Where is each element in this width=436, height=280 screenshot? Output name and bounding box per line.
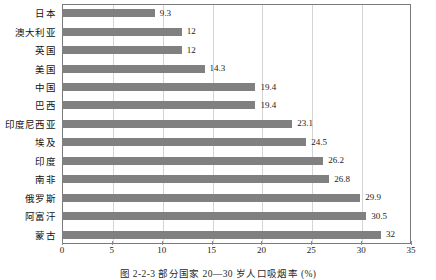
bar-row: 26.2: [62, 152, 411, 170]
bar-row: 23.1: [62, 115, 411, 133]
bar-row: 24.5: [62, 133, 411, 151]
bar-row: 29.9: [62, 189, 411, 207]
bar: [62, 175, 329, 183]
x-axis-tick-label: 20: [257, 245, 266, 255]
figure-caption: 图 2-2-3 部分国家 20—30 岁人口吸烟率 (%): [0, 266, 436, 280]
bar: [62, 101, 255, 109]
bar: [62, 65, 205, 73]
y-axis-tick-label: 蒙古: [0, 225, 59, 243]
x-axis: 05101520253035: [62, 245, 411, 259]
x-axis-tick-label: 15: [207, 245, 216, 255]
y-axis-tick-label: 英国: [0, 41, 59, 59]
y-axis-tick-label: 澳大利亚: [0, 22, 59, 40]
bar-value-label: 19.4: [260, 83, 276, 92]
bar: [62, 46, 182, 54]
x-axis-tick-label: 30: [357, 245, 366, 255]
x-axis-tick-label: 35: [407, 245, 416, 255]
bar-value-label: 23.1: [297, 119, 313, 128]
y-axis-tick-label: 埃及: [0, 133, 59, 151]
y-axis-tick-label: 日本: [0, 4, 59, 22]
bar-row: 12: [62, 41, 411, 59]
x-axis-tick-label: 10: [157, 245, 166, 255]
bar: [62, 231, 381, 239]
bar: [62, 120, 292, 128]
bar-row: 9.3: [62, 4, 411, 22]
bar-series: 9.3121214.319.419.423.124.526.226.829.93…: [62, 4, 411, 244]
bar: [62, 83, 255, 91]
bar-value-label: 26.8: [334, 175, 350, 184]
bar-value-label: 32: [386, 230, 395, 239]
bar: [62, 212, 366, 220]
bar: [62, 194, 360, 202]
bar: [62, 157, 323, 165]
bar: [62, 28, 182, 36]
bar-value-label: 29.9: [365, 193, 381, 202]
bar-row: 14.3: [62, 59, 411, 77]
bar-row: 26.8: [62, 170, 411, 188]
bar-value-label: 30.5: [371, 212, 387, 221]
y-axis-tick-label: 美国: [0, 59, 59, 77]
y-axis-tick-label: 巴西: [0, 96, 59, 114]
y-axis-category-labels: 日本澳大利亚英国美国中国巴西印度尼西亚埃及印度南非俄罗斯阿富汗蒙古: [0, 4, 59, 244]
bar-row: 19.4: [62, 78, 411, 96]
y-axis-tick-label: 印度: [0, 152, 59, 170]
bar: [62, 9, 155, 17]
bar-value-label: 14.3: [210, 64, 226, 73]
bar-value-label: 19.4: [260, 101, 276, 110]
bar-value-label: 12: [187, 46, 196, 55]
bar-row: 32: [62, 225, 411, 243]
y-axis-tick-label: 俄罗斯: [0, 189, 59, 207]
y-axis-tick-label: 阿富汗: [0, 207, 59, 225]
bar-row: 19.4: [62, 96, 411, 114]
bar: [62, 138, 306, 146]
bar-row: 30.5: [62, 207, 411, 225]
bar-value-label: 9.3: [160, 9, 171, 18]
y-axis-tick-label: 印度尼西亚: [0, 115, 59, 133]
y-axis-tick-label: 南非: [0, 170, 59, 188]
bar-value-label: 26.2: [328, 156, 344, 165]
x-axis-tick-label: 5: [110, 245, 115, 255]
bar-value-label: 24.5: [311, 138, 327, 147]
x-axis-tick-label: 25: [307, 245, 316, 255]
bar-value-label: 12: [187, 27, 196, 36]
bar-row: 12: [62, 22, 411, 40]
x-axis-tick-label: 0: [60, 245, 65, 255]
y-axis-tick-label: 中国: [0, 78, 59, 96]
